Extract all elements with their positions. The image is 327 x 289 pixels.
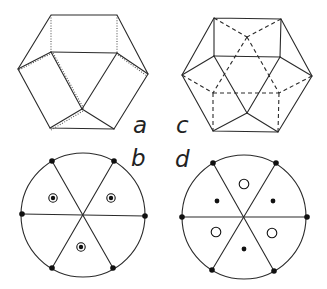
crystal-diagram: a c (0, 0, 327, 289)
panel-d-label: d (175, 146, 190, 172)
open-circle-symbols (211, 179, 277, 238)
small-dot-symbols (215, 199, 276, 252)
circled-dot-symbols (49, 194, 115, 251)
panel-b-label: b (131, 145, 146, 171)
panel-c-polyhedron (182, 18, 312, 132)
panel-a-label: a (133, 112, 147, 138)
panel-c-label: c (176, 112, 189, 138)
panel-b-projection (19, 153, 148, 277)
panel-a-polyhedron (18, 15, 148, 130)
panel-d-projection (179, 155, 310, 279)
